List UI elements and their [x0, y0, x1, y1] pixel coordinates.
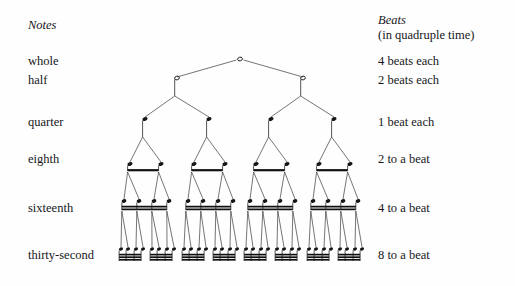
- branch-sixteenth-to-thirtysecond-25: [311, 211, 316, 247]
- branch-sixteenth-to-thirtysecond-27: [326, 211, 331, 247]
- branch-sixteenth-to-thirtysecond-11: [201, 211, 206, 247]
- branch-sixteenth-to-thirtysecond-13: [216, 211, 222, 247]
- branch-quarter-to-eighth-5: [269, 137, 287, 162]
- whole-notehead: [237, 57, 243, 62]
- branch-quarter-to-eighth-1: [143, 137, 161, 162]
- branch-quarter-to-eighth-0: [130, 137, 143, 162]
- branch-sixteenth-to-thirtysecond-3: [137, 211, 143, 247]
- branch-eighth-to-sixteenth-4: [188, 172, 192, 199]
- branch-half-to-quarter-3: [301, 96, 334, 117]
- branch-eighth-to-sixteenth-0: [124, 172, 128, 199]
- branch-eighth-to-sixteenth-2: [154, 172, 159, 199]
- branch-sixteenth-to-thirtysecond-24: [309, 211, 311, 247]
- branch-whole-to-half-0: [177, 60, 237, 77]
- branch-eighth-to-sixteenth-1: [128, 172, 139, 199]
- branch-half-to-quarter-0: [145, 96, 175, 117]
- branch-eighth-to-sixteenth-7: [223, 172, 233, 199]
- branch-whole-to-half-1: [244, 60, 304, 77]
- branch-eighth-to-sixteenth-6: [218, 172, 223, 199]
- branch-sixteenth-to-thirtysecond-18: [261, 211, 263, 247]
- branch-sixteenth-to-thirtysecond-14: [230, 211, 231, 247]
- branch-sixteenth-to-thirtysecond-2: [136, 211, 137, 247]
- branch-sixteenth-to-thirtysecond-31: [356, 211, 362, 247]
- branch-sixteenth-to-thirtysecond-12: [215, 211, 216, 247]
- branch-sixteenth-to-thirtysecond-22: [292, 211, 293, 247]
- branch-sixteenth-to-thirtysecond-23: [293, 211, 299, 247]
- branch-sixteenth-to-thirtysecond-21: [278, 211, 284, 247]
- branch-sixteenth-to-thirtysecond-10: [199, 211, 201, 247]
- branch-sixteenth-to-thirtysecond-17: [248, 211, 253, 247]
- branch-sixteenth-to-thirtysecond-20: [277, 211, 278, 247]
- branch-eighth-to-sixteenth-10: [280, 172, 285, 199]
- branch-sixteenth-to-thirtysecond-1: [122, 211, 128, 247]
- branch-eighth-to-sixteenth-11: [285, 172, 295, 199]
- figure-canvas: Notes whole half quarter eighth sixteent…: [0, 0, 515, 286]
- branch-sixteenth-to-thirtysecond-5: [152, 211, 159, 247]
- branch-eighth-to-sixteenth-3: [159, 172, 169, 199]
- branch-quarter-to-eighth-2: [194, 137, 207, 162]
- branch-eighth-to-sixteenth-9: [254, 172, 265, 199]
- branch-sixteenth-to-thirtysecond-16: [246, 211, 248, 247]
- branch-quarter-to-eighth-4: [256, 137, 269, 162]
- branch-half-to-quarter-1: [175, 96, 209, 117]
- branch-quarter-to-eighth-3: [207, 137, 225, 162]
- tree-branches: [121, 60, 362, 247]
- branch-eighth-to-sixteenth-12: [313, 172, 317, 199]
- branch-eighth-to-sixteenth-13: [317, 172, 328, 199]
- branch-half-to-quarter-2: [271, 96, 301, 117]
- note-value-tree-diagram: [0, 0, 515, 286]
- branch-sixteenth-to-thirtysecond-0: [121, 211, 122, 247]
- branch-sixteenth-to-thirtysecond-29: [341, 211, 347, 247]
- branch-eighth-to-sixteenth-8: [250, 172, 254, 199]
- branch-sixteenth-to-thirtysecond-7: [167, 211, 174, 247]
- branch-eighth-to-sixteenth-5: [192, 172, 203, 199]
- branch-sixteenth-to-thirtysecond-30: [355, 211, 356, 247]
- branch-eighth-to-sixteenth-14: [343, 172, 348, 199]
- branch-sixteenth-to-thirtysecond-9: [186, 211, 191, 247]
- branch-eighth-to-sixteenth-15: [348, 172, 358, 199]
- half-notehead-0: [174, 76, 180, 81]
- branch-sixteenth-to-thirtysecond-26: [324, 211, 326, 247]
- branch-sixteenth-to-thirtysecond-28: [340, 211, 341, 247]
- branch-quarter-to-eighth-6: [319, 137, 332, 162]
- branch-sixteenth-to-thirtysecond-19: [263, 211, 268, 247]
- branch-quarter-to-eighth-7: [332, 137, 350, 162]
- branch-sixteenth-to-thirtysecond-15: [231, 211, 237, 247]
- branch-sixteenth-to-thirtysecond-8: [184, 211, 186, 247]
